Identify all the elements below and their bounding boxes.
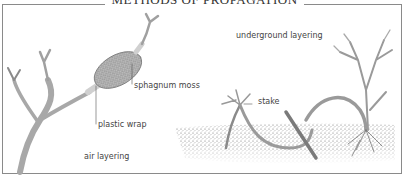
label-stake: stake xyxy=(258,97,279,106)
propagation-illustration xyxy=(0,0,409,178)
caption-air-layering: air layering xyxy=(84,152,129,161)
label-plastic-wrap: plastic wrap xyxy=(98,120,146,129)
air-layering-drawing xyxy=(8,14,158,172)
label-sphagnum-moss: sphagnum moss xyxy=(134,81,200,90)
caption-underground-layering: underground layering xyxy=(236,31,323,40)
underground-layering-drawing xyxy=(175,30,395,165)
